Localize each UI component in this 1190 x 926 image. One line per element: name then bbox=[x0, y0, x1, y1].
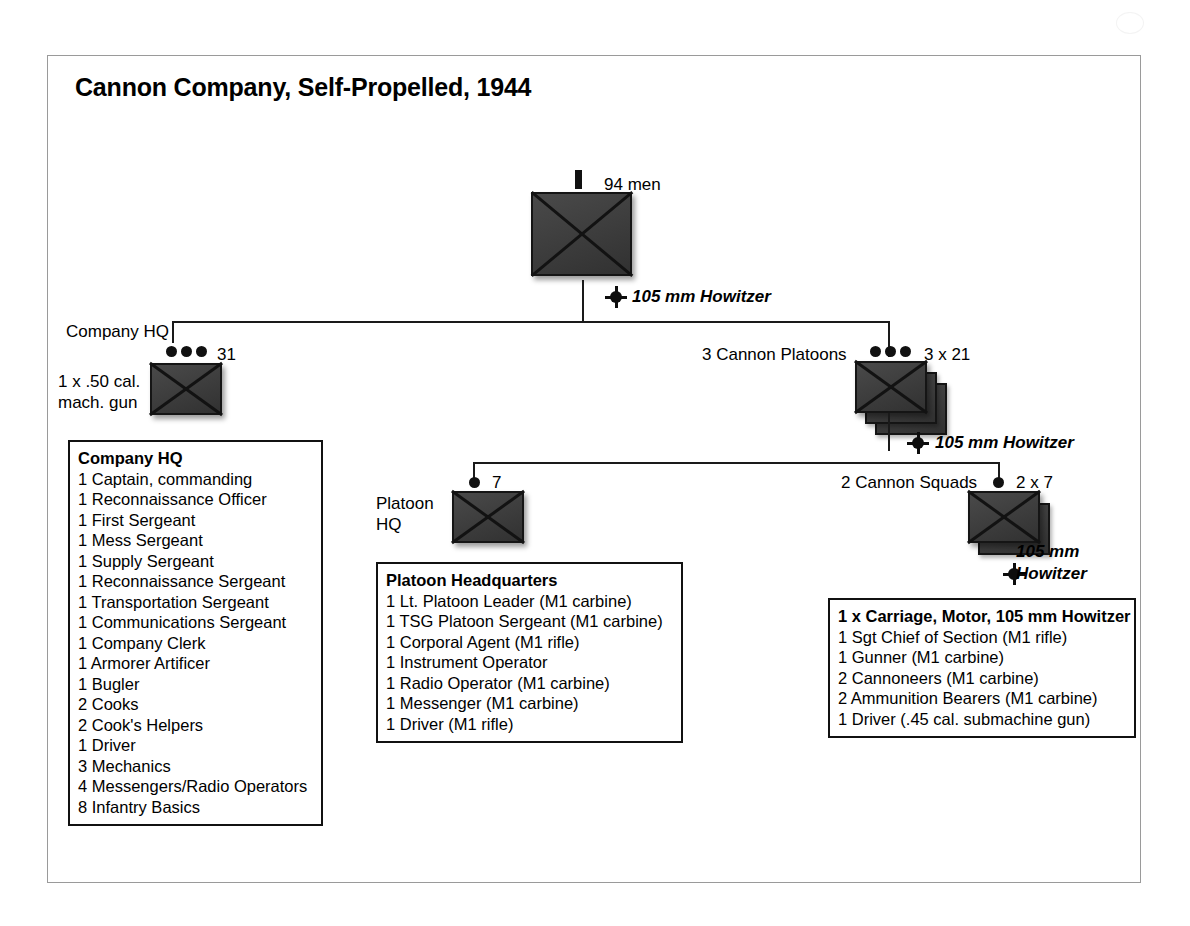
connector-level2-bus bbox=[172, 321, 890, 323]
company-howitzer-label: 105 mm Howitzer bbox=[632, 286, 771, 307]
detail-box-list-item: 1 TSG Platoon Sergeant (M1 carbine) bbox=[386, 611, 673, 632]
cannon-squads-strength-label: 2 x 7 bbox=[1016, 472, 1053, 493]
detail-box-list-item: 1 Supply Sergeant bbox=[78, 551, 313, 572]
detail-box-list-item: 8 Infantry Basics bbox=[78, 797, 313, 818]
connector-level2-left-drop bbox=[172, 321, 174, 343]
detail-box-list-item: 1 Driver (M1 rifle) bbox=[386, 714, 673, 735]
detail-box-list-item: 1 Armorer Artificer bbox=[78, 653, 313, 674]
echelon-dot-icon bbox=[885, 346, 896, 357]
detail-box-list: 1 Lt. Platoon Leader (M1 carbine)1 TSG P… bbox=[386, 591, 673, 735]
detail-box-list-item: 1 Gunner (M1 carbine) bbox=[838, 647, 1126, 668]
unit-box-stack-front bbox=[968, 491, 1040, 543]
unit-symbol-platoon-hq[interactable] bbox=[452, 491, 528, 547]
detail-box-list-item: 1 Mess Sergeant bbox=[78, 530, 313, 551]
detail-box-list-item: 1 Radio Operator (M1 carbine) bbox=[386, 673, 673, 694]
weapon-note-line-2: mach. gun bbox=[58, 393, 137, 412]
platoon-hq-name-line-2: HQ bbox=[376, 515, 402, 534]
detail-box-title: Company HQ bbox=[78, 448, 313, 469]
detail-box-list-item: 2 Ammunition Bearers (M1 carbine) bbox=[838, 688, 1126, 709]
detail-box-list-item: 2 Cook's Helpers bbox=[78, 715, 313, 736]
echelon-dot-icon bbox=[993, 477, 1004, 488]
detail-box-list-item: 1 Company Clerk bbox=[78, 633, 313, 654]
echelon-dot-icon bbox=[181, 346, 192, 357]
detail-box-list-item: 1 First Sergeant bbox=[78, 510, 313, 531]
page-title: Cannon Company, Self-Propelled, 1944 bbox=[75, 73, 531, 102]
echelon-dot-icon bbox=[166, 346, 177, 357]
cannon-platoons-name-label: 3 Cannon Platoons bbox=[702, 344, 847, 365]
unit-box-company-hq bbox=[150, 363, 222, 415]
detail-box-list-item: 1 Communications Sergeant bbox=[78, 612, 313, 633]
echelon-dot-icon bbox=[196, 346, 207, 357]
detail-box-list-item: 1 Reconnaissance Sergeant bbox=[78, 571, 313, 592]
echelon-cannon-platoons-dots bbox=[864, 344, 916, 358]
cannon-squads-name-label: 2 Cannon Squads bbox=[841, 472, 977, 493]
detail-box-list-item: 1 Transportation Sergeant bbox=[78, 592, 313, 613]
unit-symbol-company-hq[interactable] bbox=[150, 363, 226, 419]
connector-platoon-stem bbox=[888, 413, 890, 451]
company-hq-weapon-note: 1 x .50 cal. mach. gun bbox=[58, 371, 153, 413]
detail-box-title: Platoon Headquarters bbox=[386, 570, 673, 591]
unit-symbol-company[interactable] bbox=[531, 192, 636, 280]
detail-box-list-item: 2 Cooks bbox=[78, 694, 313, 715]
platoon-hq-name-label: Platoon HQ bbox=[376, 493, 452, 535]
scan-artifact bbox=[1116, 12, 1144, 34]
unit-box-platoon-hq bbox=[452, 491, 524, 543]
detail-box-list-item: 1 Driver bbox=[78, 735, 313, 756]
detail-box-list-item: 1 Messenger (M1 carbine) bbox=[386, 693, 673, 714]
unit-box-stack-front bbox=[855, 361, 927, 413]
howitzer-icon-company bbox=[605, 286, 627, 308]
howitzer-icon-cannon-platoons bbox=[907, 432, 929, 454]
echelon-cannon-squads-dot bbox=[991, 475, 1005, 489]
cannon-platoons-howitzer-label: 105 mm Howitzer bbox=[935, 432, 1074, 453]
echelon-platoon-hq-dot bbox=[467, 475, 481, 489]
unit-box-company bbox=[531, 192, 632, 276]
platoon-hq-strength-label: 7 bbox=[492, 472, 501, 493]
platoon-hq-name-line-1: Platoon bbox=[376, 494, 434, 513]
echelon-company-bar bbox=[566, 169, 590, 189]
cannon-squads-howitzer-label-line-1: 105 mm bbox=[1016, 541, 1079, 562]
echelon-company-hq-dots bbox=[160, 344, 212, 358]
detail-box-list-item: 1 Reconnaissance Officer bbox=[78, 489, 313, 510]
company-hq-name-label: Company HQ bbox=[66, 321, 169, 342]
cannon-squads-howitzer-label-line-2: Howitzer bbox=[1016, 563, 1087, 584]
detail-box-list-item: 1 Sgt Chief of Section (M1 rifle) bbox=[838, 627, 1126, 648]
echelon-bar-icon bbox=[575, 170, 582, 189]
unit-symbol-cannon-platoons[interactable] bbox=[855, 361, 950, 435]
weapon-note-line-1: 1 x .50 cal. bbox=[58, 372, 140, 391]
echelon-dot-icon bbox=[870, 346, 881, 357]
detail-box-list-item: 1 Lt. Platoon Leader (M1 carbine) bbox=[386, 591, 673, 612]
detail-box-list-item: 2 Cannoneers (M1 carbine) bbox=[838, 668, 1126, 689]
detail-box-list-item: 1 Corporal Agent (M1 rifle) bbox=[386, 632, 673, 653]
detail-box-list-item: 1 Captain, commanding bbox=[78, 469, 313, 490]
detail-box-cannon-squad: 1 x Carriage, Motor, 105 mm Howitzer 1 S… bbox=[828, 598, 1136, 738]
echelon-dot-icon bbox=[469, 477, 480, 488]
detail-box-company-hq: Company HQ 1 Captain, commanding1 Reconn… bbox=[68, 440, 323, 826]
connector-company-stem bbox=[582, 280, 584, 322]
detail-box-list-item: 3 Mechanics bbox=[78, 756, 313, 777]
detail-box-list: 1 Captain, commanding1 Reconnaissance Of… bbox=[78, 469, 313, 818]
detail-box-title: 1 x Carriage, Motor, 105 mm Howitzer bbox=[838, 606, 1126, 627]
detail-box-list-item: 1 Bugler bbox=[78, 674, 313, 695]
detail-box-platoon-hq: Platoon Headquarters 1 Lt. Platoon Leade… bbox=[376, 562, 683, 743]
detail-box-list: 1 Sgt Chief of Section (M1 rifle)1 Gunne… bbox=[838, 627, 1126, 730]
detail-box-list-item: 4 Messengers/Radio Operators bbox=[78, 776, 313, 797]
connector-level3-bus bbox=[473, 462, 1000, 464]
echelon-dot-icon bbox=[900, 346, 911, 357]
detail-box-list-item: 1 Instrument Operator bbox=[386, 652, 673, 673]
detail-box-list-item: 1 Driver (.45 cal. submachine gun) bbox=[838, 709, 1126, 730]
